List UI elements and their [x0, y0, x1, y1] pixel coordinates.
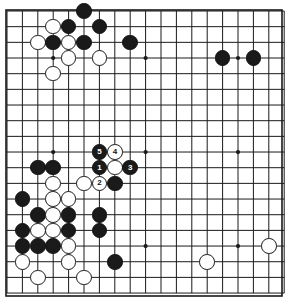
stone-move-4: 4: [107, 144, 123, 160]
stone-white: [61, 50, 77, 66]
stone-black: [107, 176, 123, 192]
stone-white: [15, 254, 31, 270]
star-point: [236, 244, 240, 248]
stone-black: [76, 3, 92, 19]
stone-white: [45, 207, 61, 223]
star-point: [51, 56, 55, 60]
stone-white: [61, 254, 77, 270]
stone-white: [199, 254, 215, 270]
stone-black: [107, 254, 123, 270]
move-number-label: 3: [128, 163, 132, 171]
go-board-diagram: 54132: [0, 0, 289, 303]
stone-white: [45, 176, 61, 192]
stone-black: [45, 35, 61, 51]
stone-white: [30, 270, 46, 286]
stone-black: [92, 207, 108, 223]
stone-white: [107, 160, 123, 176]
stone-black: [45, 238, 61, 254]
star-point: [51, 150, 55, 154]
move-number-label: 1: [97, 163, 101, 171]
stone-black: [30, 238, 46, 254]
stone-white: [30, 223, 46, 239]
move-number-label: 5: [97, 148, 101, 156]
stone-black: [215, 50, 231, 66]
stone-black: [15, 191, 31, 207]
star-point: [236, 56, 240, 60]
star-point: [144, 56, 148, 60]
star-point: [144, 150, 148, 154]
star-point: [144, 244, 148, 248]
move-number-label: 4: [113, 148, 117, 156]
star-point: [236, 150, 240, 154]
stone-white: [61, 238, 77, 254]
stone-black: [246, 50, 262, 66]
stone-white: [76, 270, 92, 286]
stone-white: [45, 191, 61, 207]
stone-white: [92, 50, 108, 66]
move-number-label: 2: [97, 179, 101, 187]
stone-white: [30, 35, 46, 51]
stone-black: [61, 207, 77, 223]
stone-black: [15, 238, 31, 254]
stone-white: [61, 191, 77, 207]
stone-white: [261, 238, 277, 254]
stone-white: [76, 176, 92, 192]
stone-black: [122, 35, 138, 51]
stone-black: [76, 35, 92, 51]
stone-black: [30, 160, 46, 176]
stone-white: [45, 223, 61, 239]
stone-black: [30, 207, 46, 223]
stone-move-5: 5: [92, 144, 108, 160]
